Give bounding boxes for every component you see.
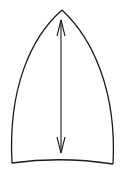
pointed-arch-diagram — [0, 0, 125, 175]
arch-left-curve — [12, 10, 62, 163]
arch-base-curve — [12, 160, 113, 164]
height-arrow — [57, 20, 65, 153]
arch-outline — [12, 10, 114, 164]
arch-right-curve — [62, 10, 113, 164]
